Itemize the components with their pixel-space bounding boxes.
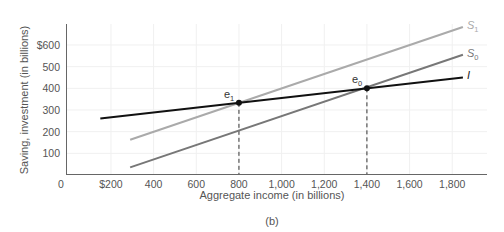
x-tick-label: $200 bbox=[99, 178, 123, 190]
series-label-I: I bbox=[467, 69, 470, 81]
y-tick-label: 500 bbox=[42, 61, 60, 73]
y-tick-label: 100 bbox=[42, 147, 60, 159]
x-tick-label: 1,800 bbox=[439, 178, 465, 190]
y-tick-label: 300 bbox=[42, 104, 60, 116]
y-axis-label: Saving, investment (in billions) bbox=[18, 26, 30, 175]
series-label-S0: S0 bbox=[467, 47, 479, 62]
y-tick-label: $600 bbox=[37, 39, 61, 51]
x-tick-label: 400 bbox=[145, 178, 163, 190]
y-tick-label: 200 bbox=[42, 126, 60, 138]
x-tick-label: 1,400 bbox=[354, 178, 380, 190]
point-label-e0: e0 bbox=[352, 73, 362, 88]
point-e0 bbox=[364, 85, 370, 91]
x-tick-label: 0 bbox=[58, 178, 64, 190]
x-axis-label: Aggregate income (in billions) bbox=[200, 189, 345, 201]
point-e1 bbox=[236, 100, 242, 106]
figure-caption: (b) bbox=[265, 215, 278, 227]
y-tick-labels: 100200300400500$600 bbox=[37, 39, 61, 159]
series-label-S1: S1 bbox=[467, 19, 479, 34]
saving-investment-chart: 0$2004006008001,0001,2001,4001,6001,800 … bbox=[0, 0, 504, 232]
series-lines: S1S0I bbox=[100, 19, 478, 167]
x-tick-label: 1,600 bbox=[396, 178, 422, 190]
point-label-e1: e1 bbox=[224, 88, 234, 103]
y-tick-label: 400 bbox=[42, 82, 60, 94]
series-line-S0 bbox=[130, 55, 463, 168]
